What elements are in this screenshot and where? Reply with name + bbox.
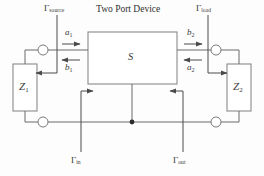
diagram-title: Two Port Device [96, 5, 160, 15]
junction-dot [130, 120, 135, 125]
terminal-left-top [38, 45, 48, 55]
label-a2: a2 [187, 63, 195, 73]
label-b1: b1 [65, 63, 73, 73]
label-gamma-source: Γsource [44, 4, 64, 13]
label-a1: a1 [65, 28, 73, 38]
wire-left-bottom [25, 111, 38, 122]
gamma-source-subscript: source [49, 7, 64, 13]
terminal-right-top [211, 45, 221, 55]
z2-subscript: 2 [239, 86, 243, 94]
b1-subscript: 1 [70, 67, 73, 73]
label-s-matrix: S [128, 52, 133, 63]
label-z1: Z1 [19, 81, 29, 94]
b2-subscript: 2 [192, 32, 195, 38]
wire-left-top [25, 50, 38, 64]
a1-subscript: 1 [70, 32, 73, 38]
wire-right-top [221, 50, 239, 64]
terminal-right-bottom [211, 117, 221, 127]
label-gamma-out: Γout [173, 156, 186, 165]
label-gamma-in: Γin [71, 156, 81, 165]
gamma-load-subscript: load [201, 7, 211, 13]
gamma-out-subscript: out [178, 159, 185, 165]
schematic-svg [0, 0, 264, 176]
label-gamma-load: Γload [196, 4, 211, 13]
schematic-figure: Two Port Device Γsource Γload Γin Γout a… [0, 0, 264, 176]
wire-right-bottom [221, 111, 239, 122]
gamma-load-pointer [208, 15, 227, 73]
a2-subscript: 2 [192, 67, 195, 73]
z1-subscript: 1 [25, 86, 29, 94]
gamma-in-subscript: in [76, 159, 81, 165]
label-b2: b2 [187, 28, 195, 38]
gamma-source-pointer [36, 15, 57, 73]
terminal-left-bottom [38, 117, 48, 127]
label-z2: Z2 [233, 81, 243, 94]
